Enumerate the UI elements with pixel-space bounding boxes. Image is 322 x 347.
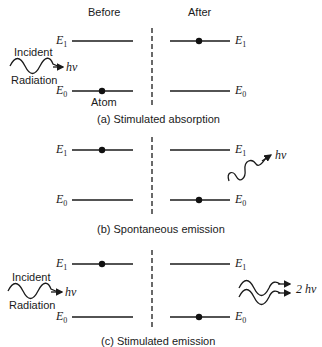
electron-b-after bbox=[196, 197, 202, 203]
photon-label-b: hν bbox=[275, 149, 286, 161]
emitted-wave-b bbox=[228, 158, 266, 181]
photon-label-a: hν bbox=[66, 61, 77, 73]
caption-a: (a) Stimulated absorption bbox=[97, 114, 220, 125]
label-e1-right-a: E1 bbox=[235, 34, 246, 49]
electron-a-after bbox=[196, 38, 202, 44]
radiation-label-c: Radiation bbox=[9, 300, 55, 311]
emitted-wave-c1 bbox=[239, 281, 280, 296]
header-before: Before bbox=[88, 7, 120, 18]
incident-label-a: Incident bbox=[14, 47, 53, 58]
caption-c: (c) Stimulated emission bbox=[101, 336, 215, 347]
electron-a-before bbox=[99, 88, 105, 94]
label-e1-left-a: E1 bbox=[56, 34, 67, 49]
incident-label-c: Incident bbox=[12, 272, 51, 283]
electron-b-before bbox=[99, 147, 105, 153]
two-photons-label: 2 hν bbox=[296, 283, 316, 295]
label-e0-left-a: E0 bbox=[56, 84, 67, 99]
photon-label-c: hν bbox=[65, 286, 76, 298]
label-e0-right-a: E0 bbox=[235, 84, 246, 99]
label-e1-left-c: E1 bbox=[56, 257, 67, 272]
label-e0-left-c: E0 bbox=[56, 310, 67, 325]
label-e1-left-b: E1 bbox=[56, 143, 67, 158]
emitted-wave-c2 bbox=[239, 290, 280, 305]
label-e0-right-c: E0 bbox=[235, 310, 246, 325]
label-e1-right-b: E1 bbox=[235, 143, 246, 158]
caption-b: (b) Spontaneous emission bbox=[97, 224, 225, 235]
label-e0-left-b: E0 bbox=[56, 193, 67, 208]
header-after: After bbox=[188, 7, 211, 18]
atom-label: Atom bbox=[91, 97, 117, 108]
incident-wave-c bbox=[8, 283, 58, 298]
label-e1-right-c: E1 bbox=[235, 257, 246, 272]
electron-c-before bbox=[99, 261, 105, 267]
electron-c-after bbox=[196, 314, 202, 320]
incident-wave-a bbox=[10, 58, 60, 73]
label-e0-right-b: E0 bbox=[235, 193, 246, 208]
radiation-label-a: Radiation bbox=[11, 75, 57, 86]
